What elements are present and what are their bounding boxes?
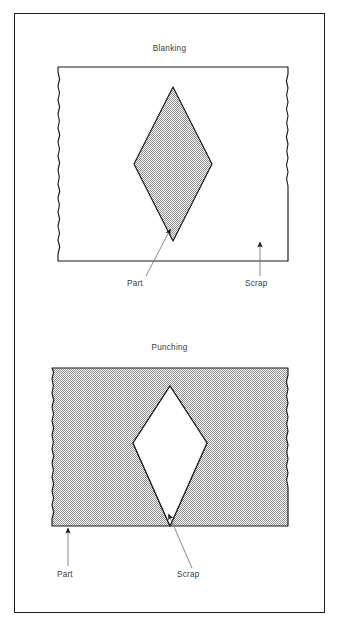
label-scrap-blanking: Scrap	[245, 279, 267, 288]
punching-diagram	[0, 330, 339, 610]
label-scrap-punching: Scrap	[177, 570, 199, 579]
label-part-punching: Part	[57, 570, 73, 579]
panel-blanking: Blanking Part Scrap	[0, 30, 339, 305]
panel-punching: Punching Part Scrap	[0, 330, 339, 610]
blanking-diagram	[0, 30, 339, 305]
label-part-blanking: Part	[127, 279, 143, 288]
figure-root: Blanking Part Scrap	[0, 0, 339, 627]
